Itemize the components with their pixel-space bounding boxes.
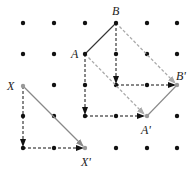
- arrow-b-to-b-prime: [116, 23, 175, 83]
- arrow-a-to-a-prime: [85, 54, 144, 114]
- translation-diagram: B A B' A' X X': [0, 0, 189, 175]
- point-x: [21, 84, 25, 88]
- point-a-prime: [145, 114, 149, 118]
- segment-a-prime-b-prime: [147, 85, 177, 116]
- label-b: B: [112, 4, 120, 18]
- label-x-prime: X': [80, 155, 91, 169]
- point-b-prime: [175, 83, 179, 87]
- label-x: X: [6, 79, 15, 93]
- dot-grid: [21, 21, 179, 150]
- label-a-prime: A': [140, 123, 151, 137]
- point-x-prime: [83, 146, 87, 150]
- point-a: [83, 52, 87, 56]
- point-b: [114, 21, 118, 25]
- arrow-x-to-x-prime: [23, 86, 83, 146]
- label-a: A: [70, 47, 79, 61]
- label-b-prime: B': [176, 69, 186, 83]
- segment-ab: [85, 23, 116, 54]
